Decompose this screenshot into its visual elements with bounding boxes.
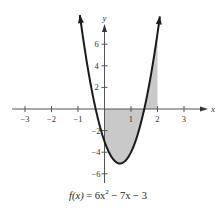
shaded-region	[105, 33, 158, 163]
y-axis-label: y	[102, 13, 107, 23]
x-tick-label: −1	[74, 114, 83, 124]
x-axis-label: x	[210, 104, 215, 114]
y-tick-label: −6	[92, 169, 101, 179]
y-tick-label: 2	[95, 82, 99, 92]
caption-prefix: f(x)	[69, 190, 84, 201]
function-caption: f(x) = 6x2 − 7x − 3	[0, 188, 216, 201]
x-tick-label: −2	[47, 114, 56, 124]
function-plot: xy−3−2−1123642−2−4−6	[0, 0, 223, 210]
x-axis-arrow-icon	[200, 107, 208, 112]
x-tick-label: 3	[182, 114, 186, 124]
y-tick-label: 6	[95, 39, 99, 49]
x-tick-label: −3	[21, 114, 30, 124]
y-tick-label: −4	[92, 147, 102, 157]
caption-rest: − 7x − 3	[109, 190, 147, 201]
y-tick-label: 4	[95, 61, 100, 71]
shaded-area	[105, 33, 158, 163]
y-axis-arrow-icon	[102, 24, 107, 32]
caption-eq: = 6x	[84, 190, 106, 201]
x-tick-label: 2	[155, 114, 159, 124]
x-tick-label: 1	[129, 114, 133, 124]
